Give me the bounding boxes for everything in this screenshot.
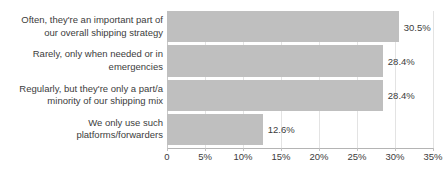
plot-area: 30.5%28.4%28.4%12.6% xyxy=(167,11,433,148)
category-label: Regularly, but they're only a part/a min… xyxy=(0,83,163,108)
x-axis-tick-labels: 05%10%15%20%25%30%35% xyxy=(167,150,433,166)
x-tick-mark xyxy=(167,148,168,151)
bar-value-label: 28.4% xyxy=(383,90,415,101)
category-axis-labels: Often, they're an important part of our … xyxy=(0,11,163,148)
x-tick-mark xyxy=(433,148,434,151)
x-tick-label: 5% xyxy=(198,150,212,164)
x-tick-label: 25% xyxy=(347,150,366,164)
gridline-35 xyxy=(433,11,434,148)
bar-row: 12.6% xyxy=(167,114,433,145)
x-tick-mark xyxy=(395,148,396,151)
bar xyxy=(167,45,383,76)
x-tick-mark xyxy=(243,148,244,151)
bar xyxy=(167,80,383,111)
category-label: Often, they're an important part of our … xyxy=(0,14,163,39)
x-tick-mark xyxy=(281,148,282,151)
bar-row: 30.5% xyxy=(167,11,433,42)
x-tick-label: 30% xyxy=(385,150,404,164)
x-tick-label: 20% xyxy=(309,150,328,164)
x-tick-label: 15% xyxy=(271,150,290,164)
horizontal-bar-chart: Often, they're an important part of our … xyxy=(0,0,446,176)
bar-value-label: 12.6% xyxy=(263,124,295,135)
bar-row: 28.4% xyxy=(167,45,433,76)
x-tick-mark xyxy=(319,148,320,151)
bar xyxy=(167,114,263,145)
bar-row: 28.4% xyxy=(167,80,433,111)
bar-series: 30.5%28.4%28.4%12.6% xyxy=(167,11,433,148)
category-label: We only use such platforms/forwarders xyxy=(0,117,163,142)
x-tick-mark xyxy=(357,148,358,151)
x-tick-label: 35% xyxy=(423,150,442,164)
bar-value-label: 30.5% xyxy=(399,21,431,32)
x-tick-label: 10% xyxy=(233,150,252,164)
bar-value-label: 28.4% xyxy=(383,55,415,66)
x-axis-line xyxy=(167,148,434,149)
x-tick-mark xyxy=(205,148,206,151)
bar xyxy=(167,11,399,42)
x-tick-label: 0 xyxy=(164,150,169,164)
category-label: Rarely, only when needed or in emergenci… xyxy=(0,48,163,73)
